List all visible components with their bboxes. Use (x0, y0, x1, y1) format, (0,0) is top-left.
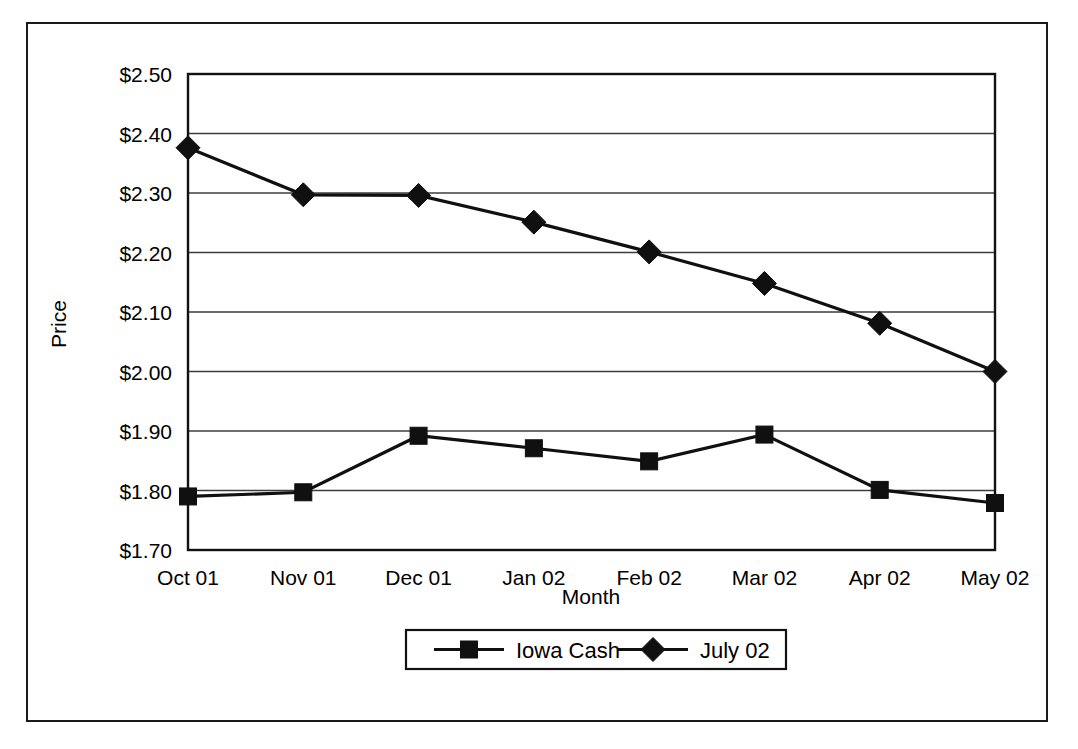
square-marker (525, 440, 542, 457)
y-axis-title: Price (47, 300, 70, 348)
y-tick-label: $2.00 (119, 361, 172, 384)
diamond-marker (637, 240, 661, 264)
diamond-marker (407, 183, 431, 207)
price-by-month-line-chart: Price $2.50$2.40$2.30$2.20$2.10$2.00$1.9… (28, 24, 1046, 720)
diamond-marker (983, 360, 1007, 384)
square-marker (461, 641, 478, 658)
series-layer (176, 136, 1007, 512)
x-tick-label: Mar 02 (732, 566, 797, 589)
y-tick-label: $2.30 (119, 182, 172, 205)
diamond-marker (291, 183, 315, 207)
y-tick-label: $1.80 (119, 480, 172, 503)
diamond-marker (868, 311, 892, 335)
y-tick-label: $2.10 (119, 301, 172, 324)
chart-figure: Price $2.50$2.40$2.30$2.20$2.10$2.00$1.9… (26, 22, 1048, 722)
diamond-marker (752, 271, 776, 295)
square-marker (641, 453, 658, 470)
y-tick-label: $1.70 (119, 539, 172, 562)
x-tick-label: Dec 01 (385, 566, 452, 589)
y-axis-tick-labels: $2.50$2.40$2.30$2.20$2.10$2.00$1.90$1.80… (119, 63, 172, 562)
y-tick-label: $1.90 (119, 420, 172, 443)
x-tick-label: Feb 02 (616, 566, 681, 589)
legend-label: Iowa Cash (516, 638, 620, 663)
legend-label: July 02 (700, 638, 770, 663)
square-marker (987, 494, 1004, 511)
square-marker (180, 488, 197, 505)
series-iowa-cash (180, 426, 1004, 511)
y-tick-label: $2.40 (119, 123, 172, 146)
x-tick-label: Apr 02 (849, 566, 911, 589)
square-marker (756, 426, 773, 443)
series-july-02 (176, 136, 1007, 384)
y-tick-label: $2.20 (119, 242, 172, 265)
series-line (188, 148, 995, 372)
square-marker (871, 481, 888, 498)
square-marker (295, 484, 312, 501)
x-tick-label: Oct 01 (157, 566, 219, 589)
diamond-marker (522, 210, 546, 234)
square-marker (410, 427, 427, 444)
x-tick-label: Jan 02 (502, 566, 565, 589)
chart-legend: Iowa CashJuly 02 (406, 630, 786, 669)
x-tick-label: May 02 (961, 566, 1030, 589)
diamond-marker (176, 136, 200, 160)
x-tick-label: Nov 01 (270, 566, 337, 589)
y-tick-label: $2.50 (119, 63, 172, 86)
x-axis-title: Month (562, 585, 620, 608)
gridlines (188, 134, 995, 491)
